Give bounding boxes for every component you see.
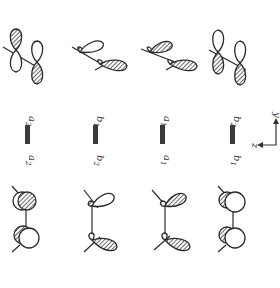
top-label-col3: a1	[159, 116, 173, 126]
axis-indicator: y z	[250, 111, 280, 149]
symmetry-column-3: a1 a1	[159, 116, 173, 165]
orbital-diagram: a2 a2 b1 b2 a1 a1 b2 b1 y z	[0, 0, 280, 288]
top-orbital-pair-col4	[209, 30, 246, 85]
bottom-orbital-pair-col1	[12, 186, 39, 252]
top-orbital-pair-col2	[72, 41, 127, 71]
bottom-orbital-pair-col3	[152, 190, 190, 251]
bottom-orbital-pair-col2	[84, 190, 117, 252]
top-orbital-pair-col1	[3, 29, 43, 84]
bottom-label-col4: b1	[229, 155, 243, 166]
bottom-orbital-pair-col4	[218, 186, 245, 252]
symmetry-column-1: a2 a2	[24, 116, 38, 166]
bond-bar-col3	[160, 125, 165, 144]
bond-bar-col4	[230, 125, 235, 144]
bottom-label-col1: a2	[24, 155, 38, 166]
bottom-label-col2: b2	[92, 155, 106, 166]
y-axis-label: y	[272, 111, 280, 118]
top-orbital-pair-col3	[141, 41, 197, 70]
z-axis-label: z	[250, 142, 261, 149]
y-arrow-icon	[273, 118, 279, 124]
bond-bar-col1	[25, 125, 30, 144]
symmetry-column-2: b1 b2	[92, 116, 106, 166]
bottom-label-col3: a1	[159, 155, 173, 165]
bond-bar-col2	[93, 125, 98, 144]
symmetry-column-4: b2 b1	[229, 116, 243, 166]
